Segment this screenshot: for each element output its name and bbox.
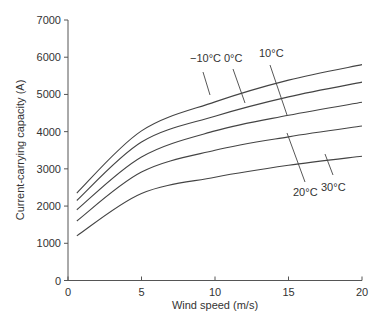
label-20c: 20°C xyxy=(293,186,318,198)
series-lines xyxy=(77,65,362,236)
y-ticks: 01000200030004000500060007000 xyxy=(37,14,68,287)
y-tick-label: 3000 xyxy=(37,163,61,175)
x-tick-label: 0 xyxy=(65,286,71,298)
y-tick-label: 2000 xyxy=(37,200,61,212)
x-tick-label: 20 xyxy=(356,286,368,298)
x-tick-label: 5 xyxy=(138,286,144,298)
series-line xyxy=(77,126,362,221)
x-tick-label: 15 xyxy=(282,286,294,298)
series-line xyxy=(77,156,362,236)
series-line xyxy=(77,102,362,210)
label-10c: 10°C xyxy=(259,47,284,59)
label-minus10c: −10°C xyxy=(190,52,221,64)
y-axis-title: Current-carrying capacity (A) xyxy=(14,80,26,221)
label-0c: 0°C xyxy=(224,52,243,64)
x-ticks: 05101520 xyxy=(65,277,368,298)
label-30c: 30°C xyxy=(321,181,346,193)
y-tick-label: 4000 xyxy=(37,126,61,138)
chart: 01000200030004000500060007000 05101520 W… xyxy=(0,0,387,329)
x-axis-title: Wind speed (m/s) xyxy=(172,299,258,311)
y-tick-label: 5000 xyxy=(37,88,61,100)
leader-lines xyxy=(203,65,333,182)
y-tick-label: 1000 xyxy=(37,237,61,249)
y-tick-label: 0 xyxy=(55,275,61,287)
series-line xyxy=(77,65,362,193)
y-tick-label: 7000 xyxy=(37,14,61,26)
y-tick-label: 6000 xyxy=(37,51,61,63)
x-tick-label: 10 xyxy=(209,286,221,298)
